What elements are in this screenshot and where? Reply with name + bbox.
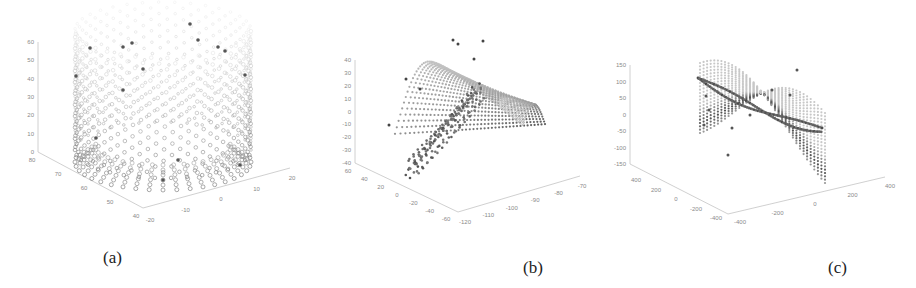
y-ticks-a: 8070605040 [29, 157, 140, 219]
caption-a: (a) [103, 248, 122, 268]
svg-text:200: 200 [651, 187, 662, 193]
panel-a: 0102030405060 8070605040 -20-1001020 (a) [0, 0, 300, 288]
x-ticks-b: -120-110-100-90-80-70 [459, 183, 587, 225]
y-ticks-c: 4002000-200-400 [631, 177, 723, 221]
svg-text:0: 0 [31, 149, 35, 155]
svg-text:40: 40 [133, 213, 140, 219]
svg-text:-20: -20 [409, 200, 418, 206]
svg-text:-10: -10 [181, 207, 190, 213]
svg-text:0: 0 [348, 109, 352, 115]
svg-text:10: 10 [253, 186, 260, 192]
svg-text:50: 50 [27, 57, 34, 63]
svg-text:0: 0 [674, 196, 678, 202]
y-ticks-b: 6040200-20-40-60 [345, 168, 451, 222]
svg-text:80: 80 [29, 157, 36, 163]
point-cloud-b [388, 39, 547, 180]
svg-text:10: 10 [344, 96, 351, 102]
plot-a-3d-scatter: 0102030405060 8070605040 -20-1001020 [0, 0, 300, 288]
plot-b-3d-scatter: -40-30-20-10010203040 6040200-20-40-60 -… [300, 0, 600, 288]
svg-text:150: 150 [616, 62, 627, 68]
z-ticks-b: -40-30-20-10010203040 [342, 57, 351, 166]
svg-text:20: 20 [377, 184, 384, 190]
svg-text:200: 200 [847, 192, 858, 198]
svg-text:100: 100 [616, 79, 627, 85]
svg-text:40: 40 [361, 176, 368, 182]
svg-text:30: 30 [27, 94, 34, 100]
caption-b: (b) [523, 258, 543, 278]
svg-text:50: 50 [107, 199, 114, 205]
svg-text:60: 60 [27, 39, 34, 45]
point-cloud-c [697, 59, 827, 184]
svg-text:0: 0 [813, 201, 817, 207]
svg-text:-80: -80 [554, 190, 563, 196]
svg-text:-150: -150 [614, 161, 627, 167]
svg-text:-10: -10 [342, 121, 351, 127]
svg-text:-110: -110 [483, 212, 495, 218]
svg-text:0: 0 [623, 112, 627, 118]
svg-text:70: 70 [55, 171, 62, 177]
z-ticks-c: -150-100-50050100150 [614, 62, 627, 167]
svg-text:-40: -40 [342, 160, 351, 166]
svg-text:0: 0 [219, 196, 223, 202]
svg-text:-200: -200 [690, 206, 703, 212]
point-cloud-a [73, 1, 253, 192]
svg-text:-60: -60 [442, 216, 451, 222]
svg-text:-50: -50 [617, 128, 626, 134]
svg-text:40: 40 [344, 57, 351, 63]
svg-text:20: 20 [27, 112, 34, 118]
svg-text:-100: -100 [614, 145, 627, 151]
svg-text:-30: -30 [342, 147, 351, 153]
svg-text:400: 400 [885, 183, 896, 189]
x-ticks-a: -20-1001020 [146, 175, 296, 223]
z-ticks-a: 0102030405060 [27, 39, 34, 155]
svg-text:-200: -200 [771, 210, 784, 216]
svg-text:-90: -90 [531, 197, 540, 203]
svg-text:20: 20 [344, 83, 351, 89]
svg-text:-120: -120 [459, 219, 472, 225]
x-ticks-c: -400-2000200400 [734, 183, 896, 225]
svg-text:-20: -20 [342, 134, 351, 140]
svg-text:-100: -100 [506, 205, 519, 211]
panel-c: -150-100-50050100150 4002000-200-400 -40… [600, 0, 916, 288]
svg-text:-400: -400 [734, 219, 747, 225]
svg-text:60: 60 [81, 185, 88, 191]
svg-text:30: 30 [344, 70, 351, 76]
svg-text:-400: -400 [710, 215, 723, 221]
svg-text:400: 400 [631, 177, 642, 183]
svg-text:0: 0 [395, 192, 399, 198]
svg-text:20: 20 [289, 175, 296, 181]
svg-text:40: 40 [27, 76, 34, 82]
svg-text:60: 60 [345, 168, 352, 174]
svg-text:10: 10 [27, 131, 34, 137]
plot-c-3d-scatter: -150-100-50050100150 4002000-200-400 -40… [600, 0, 916, 288]
svg-text:-40: -40 [425, 208, 434, 214]
panel-b: -40-30-20-10010203040 6040200-20-40-60 -… [300, 0, 600, 288]
svg-text:-20: -20 [146, 217, 155, 223]
caption-c: (c) [828, 258, 847, 278]
svg-text:50: 50 [619, 95, 626, 101]
svg-text:-70: -70 [578, 183, 587, 189]
